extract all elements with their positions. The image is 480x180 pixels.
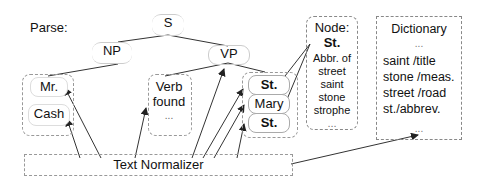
node-panel-line: stone: [307, 91, 357, 104]
node-panel-line: ...: [307, 117, 357, 130]
parse-label: Parse:: [30, 21, 68, 35]
dictionary-line: ...: [377, 123, 461, 134]
dictionary-line: st./abbrev.: [377, 101, 461, 117]
token-st-2: St.: [248, 113, 290, 133]
dictionary-line: ...: [377, 38, 461, 49]
node-info-panel: Node: St. Abbr. of street saint stone st…: [306, 16, 358, 130]
node-panel-line: strophe: [307, 104, 357, 117]
dictionary-line: stone /meas.: [377, 69, 461, 85]
token-cash: Cash: [28, 104, 70, 126]
dictionary-title: Dictionary: [377, 22, 461, 37]
token-st-1: St.: [248, 75, 290, 95]
tree-node-vp: VP: [208, 45, 250, 65]
token-mr: Mr.: [30, 77, 68, 97]
dictionary-line: saint /title: [377, 53, 461, 69]
node-panel-title: Node:: [307, 20, 357, 35]
node-panel-value: St.: [307, 35, 357, 50]
verb-title: Verb: [148, 79, 190, 94]
dictionary-panel: Dictionary ... saint /title stone /meas.…: [376, 16, 462, 140]
text-normalizer-label: Text Normalizer: [113, 157, 203, 172]
node-panel-line: saint: [307, 78, 357, 91]
node-panel-line: Abbr. of: [307, 52, 357, 65]
node-panel-line: street: [307, 65, 357, 78]
verb-value: found: [148, 94, 190, 109]
verb-ellipsis: ...: [148, 110, 190, 122]
text-normalizer-box: Text Normalizer: [24, 154, 293, 176]
token-mary: Mary: [248, 94, 290, 114]
tree-node-s: S: [152, 14, 184, 36]
tree-node-np: NP: [92, 42, 132, 64]
dictionary-line: street /road: [377, 85, 461, 101]
